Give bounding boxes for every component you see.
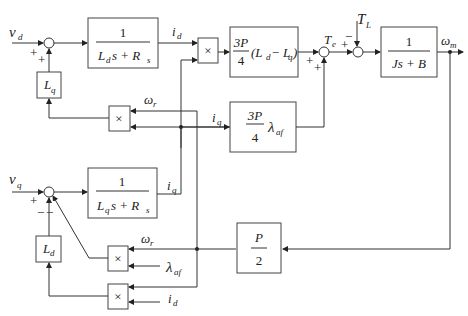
sign-plus: + <box>314 60 321 75</box>
wr-wire <box>129 249 197 287</box>
sum-mechanical <box>353 47 363 57</box>
svg-text:Js + B: Js + B <box>392 56 426 71</box>
svg-text:×: × <box>115 111 122 126</box>
wire <box>49 263 108 296</box>
svg-text:v: v <box>9 171 16 187</box>
sum-d-axis <box>44 38 54 48</box>
svg-text:r: r <box>153 99 157 109</box>
svg-text:L: L <box>96 198 104 213</box>
input-id-label: i d <box>168 291 178 308</box>
svg-text:ω: ω <box>144 92 153 107</box>
svg-text:i: i <box>172 24 176 39</box>
svg-text:(L: (L <box>251 45 263 60</box>
input-vq-label: v q <box>9 171 22 190</box>
svg-text:λ: λ <box>165 259 173 275</box>
svg-text:s + R: s + R <box>112 48 140 63</box>
multiplier-id-iq: × <box>198 38 218 63</box>
svg-text:q: q <box>105 205 110 215</box>
svg-text:d: d <box>50 248 55 258</box>
input-tl-label: T L <box>357 11 371 30</box>
svg-text:4: 4 <box>238 53 245 68</box>
svg-text:1: 1 <box>406 34 413 49</box>
output-wm-label: ω m <box>441 33 457 50</box>
signal-id-label: i d <box>172 24 182 41</box>
q-axis-current-block: 1 L q s + R s <box>88 168 157 218</box>
input-lambda-label: λ af <box>165 259 183 277</box>
svg-text:L: L <box>42 241 50 256</box>
svg-text:L: L <box>43 77 51 92</box>
sign-minus: − <box>37 205 44 220</box>
svg-text:L: L <box>365 20 371 30</box>
block-diagram: v d + + 1 L d s + R s i d × 3P 4 (L d − … <box>0 0 468 316</box>
svg-text:): ) <box>292 45 297 60</box>
svg-text:q: q <box>217 117 222 127</box>
svg-text:2: 2 <box>256 253 263 268</box>
sign-plus: + <box>306 53 313 68</box>
input-vd-label: v d <box>9 24 23 42</box>
svg-text:3P: 3P <box>247 108 263 123</box>
sign-plus: + <box>38 52 45 67</box>
svg-text:s: s <box>147 55 151 65</box>
signal-wr-label: ω r <box>144 92 157 109</box>
multiplier-wr-iq: × <box>109 106 130 131</box>
sign-plus: + <box>30 45 37 60</box>
signal-iq2-label: i q <box>167 178 177 195</box>
svg-text:q: q <box>17 180 22 190</box>
svg-text:P: P <box>254 230 263 245</box>
svg-text:af: af <box>174 267 183 277</box>
lq-block: L q <box>37 72 61 98</box>
signal-te-label: T e <box>324 32 336 49</box>
svg-text:r: r <box>150 238 154 248</box>
svg-text:i: i <box>212 110 216 125</box>
svg-text:λ: λ <box>267 119 275 135</box>
sum-torque <box>319 47 329 57</box>
pole-pairs-block: P 2 <box>237 223 281 273</box>
svg-text:d: d <box>173 298 178 308</box>
svg-text:s: s <box>146 205 150 215</box>
svg-text:T: T <box>324 32 332 47</box>
sign-minus: − <box>46 205 53 220</box>
ld-block: L d <box>36 236 61 262</box>
wm-feedback-wire <box>283 52 450 249</box>
reluctance-torque-block: 3P 4 (L d − L q ) <box>230 27 298 77</box>
mechanical-dynamics-block: 1 Js + B <box>381 27 437 77</box>
svg-text:1: 1 <box>119 174 126 189</box>
signal-iq-label: i q <box>212 110 222 127</box>
iq-to-mult-wire <box>181 60 197 148</box>
svg-text:×: × <box>114 251 121 266</box>
svg-text:e: e <box>332 39 336 49</box>
svg-text:i: i <box>167 178 171 193</box>
svg-text:4: 4 <box>252 130 259 145</box>
svg-text:v: v <box>9 24 16 40</box>
sum-q-axis <box>44 187 54 197</box>
svg-text:3P: 3P <box>233 35 249 50</box>
svg-text:ω: ω <box>441 33 450 48</box>
d-axis-current-block: 1 L d s + R s <box>88 18 158 68</box>
svg-text:1: 1 <box>120 25 127 40</box>
svg-text:s + R: s + R <box>111 198 139 213</box>
svg-text:q: q <box>51 85 56 95</box>
svg-text:×: × <box>114 289 121 304</box>
wire <box>49 99 109 118</box>
magnet-torque-block: 3P 4 λ af <box>230 102 296 152</box>
svg-text:ω: ω <box>141 231 150 246</box>
svg-text:d: d <box>106 55 111 65</box>
svg-text:L: L <box>97 48 105 63</box>
svg-text:i: i <box>168 291 172 306</box>
svg-text:d: d <box>18 32 23 42</box>
svg-text:d: d <box>177 31 182 41</box>
svg-text:×: × <box>204 43 211 58</box>
sign-plus: + <box>341 37 348 52</box>
svg-text:m: m <box>450 40 457 50</box>
signal-wr2-label: ω r <box>141 231 154 248</box>
multiplier-wr-lambda: × <box>108 246 128 271</box>
multiplier-wr-id: × <box>108 284 128 309</box>
